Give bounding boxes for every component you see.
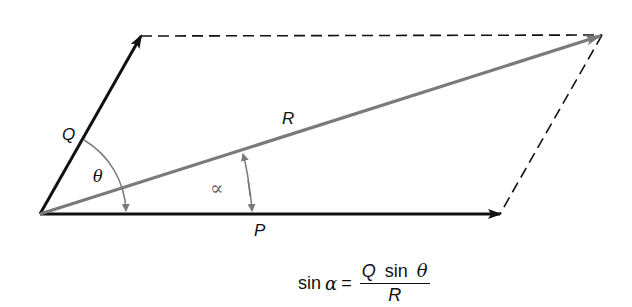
label-R: R bbox=[282, 110, 294, 127]
label-alpha: ∝ bbox=[210, 178, 224, 198]
formula-num-var: θ bbox=[417, 260, 428, 281]
alpha-arc-down bbox=[248, 180, 252, 211]
sine-formula: sin α = Q sin θ R bbox=[298, 262, 430, 305]
formula-fraction: Q sin θ R bbox=[360, 262, 430, 305]
formula-denominator: R bbox=[388, 284, 401, 305]
formula-numerator: Q sin θ bbox=[360, 262, 430, 284]
label-theta: θ bbox=[93, 169, 103, 185]
formula-num-func: sin bbox=[385, 261, 408, 281]
formula-num-Q: Q bbox=[362, 261, 376, 281]
label-P: P bbox=[254, 222, 265, 239]
label-Q: Q bbox=[62, 126, 75, 143]
force-diagram bbox=[0, 0, 632, 307]
formula-lhs-func: sin bbox=[298, 273, 321, 294]
formula-equals: = bbox=[341, 273, 352, 294]
dashed-top-side bbox=[141, 35, 602, 36]
theta-arc bbox=[84, 140, 126, 211]
alpha-arc-up bbox=[243, 154, 250, 196]
formula-lhs-var: α bbox=[325, 273, 337, 294]
